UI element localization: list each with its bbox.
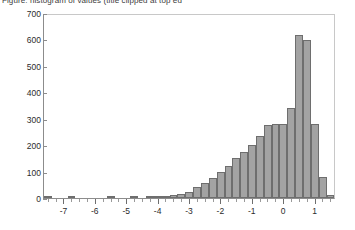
- y-axis-tick-label: 600: [1, 36, 41, 45]
- histogram-bar: [130, 196, 138, 198]
- histogram-bar: [279, 124, 287, 198]
- y-axis: 0100200300400500600700: [0, 0, 41, 230]
- histogram-chart: Figure: histogram of values (title clipp…: [0, 0, 355, 230]
- histogram-bar: [44, 196, 52, 198]
- x-axis-minor-tick: [56, 199, 57, 202]
- histogram-bar: [107, 196, 115, 198]
- x-axis-minor-tick: [267, 199, 268, 202]
- x-axis-minor-tick: [307, 199, 308, 202]
- x-axis-minor-tick: [275, 199, 276, 202]
- y-axis-tick-label: 400: [1, 89, 41, 98]
- y-axis-tick-label: 500: [1, 63, 41, 72]
- plot-area: [43, 14, 335, 199]
- histogram-bar: [232, 158, 240, 198]
- y-axis-tick-mark: [43, 14, 47, 15]
- x-axis-minor-tick: [181, 199, 182, 202]
- x-axis-minor-tick: [87, 199, 88, 202]
- histogram-bar: [311, 124, 319, 198]
- x-axis-minor-tick: [103, 199, 104, 202]
- x-axis-major-tick: [283, 199, 284, 204]
- histogram-bar: [240, 152, 248, 198]
- histogram-bar: [193, 187, 201, 198]
- histogram-bar: [256, 136, 264, 198]
- x-axis-tick-label: -1: [240, 207, 264, 216]
- histogram-bar: [327, 195, 335, 198]
- x-axis-minor-tick: [173, 199, 174, 202]
- x-axis-minor-tick: [291, 199, 292, 202]
- x-axis-tick-label: -4: [146, 207, 170, 216]
- bar-series: [44, 15, 334, 198]
- y-axis-tick-label: 300: [1, 116, 41, 125]
- x-axis-minor-tick: [71, 199, 72, 202]
- x-axis-minor-tick: [299, 199, 300, 202]
- x-axis-tick-label: -3: [177, 207, 201, 216]
- x-axis-minor-tick: [244, 199, 245, 202]
- x-axis-minor-tick: [150, 199, 151, 202]
- x-axis-minor-tick: [48, 199, 49, 202]
- histogram-bar: [177, 194, 185, 198]
- x-axis-major-tick: [63, 199, 64, 204]
- histogram-bar: [303, 40, 311, 198]
- x-axis-tick-label: 1: [303, 207, 327, 216]
- histogram-bar: [295, 35, 303, 198]
- histogram-bar: [272, 124, 280, 198]
- histogram-bar: [154, 196, 162, 198]
- x-axis-minor-tick: [197, 199, 198, 202]
- y-axis-tick-mark: [43, 67, 47, 68]
- histogram-bar: [162, 196, 170, 198]
- y-axis-tick-label: 200: [1, 142, 41, 151]
- x-axis-major-tick: [220, 199, 221, 204]
- x-axis-minor-tick: [213, 199, 214, 202]
- x-axis-tick-label: -2: [208, 207, 232, 216]
- x-axis-minor-tick: [205, 199, 206, 202]
- x-axis-tick-label: -6: [83, 207, 107, 216]
- histogram-bar: [264, 125, 272, 198]
- y-axis-tick-mark: [43, 173, 47, 174]
- x-axis-major-tick: [315, 199, 316, 204]
- x-axis-minor-tick: [236, 199, 237, 202]
- x-axis-major-tick: [95, 199, 96, 204]
- x-axis-tick-label: -5: [114, 207, 138, 216]
- histogram-bar: [201, 183, 209, 198]
- histogram-bar: [68, 196, 76, 198]
- y-axis-tick-label: 100: [1, 169, 41, 178]
- y-axis-tick-label: 700: [1, 10, 41, 19]
- x-axis-minor-tick: [330, 199, 331, 202]
- x-axis-minor-tick: [260, 199, 261, 202]
- x-axis-tick-label: -7: [51, 207, 75, 216]
- histogram-bar: [225, 166, 233, 198]
- x-axis-minor-tick: [111, 199, 112, 202]
- x-axis-minor-tick: [79, 199, 80, 202]
- histogram-bar: [170, 195, 178, 198]
- histogram-bar: [248, 145, 256, 198]
- x-axis-minor-tick: [134, 199, 135, 202]
- y-axis-tick-label: 0: [1, 195, 41, 204]
- x-axis-minor-tick: [142, 199, 143, 202]
- x-axis-major-tick: [252, 199, 253, 204]
- histogram-bar: [185, 192, 193, 198]
- x-axis-tick-label: 0: [271, 207, 295, 216]
- x-axis-minor-tick: [322, 199, 323, 202]
- x-axis-major-tick: [158, 199, 159, 204]
- x-axis: -7-6-5-4-3-2-101: [43, 199, 335, 230]
- histogram-bar: [287, 108, 295, 198]
- histogram-bar: [319, 177, 327, 198]
- y-axis-tick-mark: [43, 40, 47, 41]
- histogram-bar: [146, 196, 154, 198]
- y-axis-tick-mark: [43, 199, 47, 200]
- x-axis-minor-tick: [165, 199, 166, 202]
- x-axis-minor-tick: [228, 199, 229, 202]
- y-axis-tick-mark: [43, 146, 47, 147]
- y-axis-tick-mark: [43, 93, 47, 94]
- x-axis-major-tick: [126, 199, 127, 204]
- y-axis-tick-mark: [43, 120, 47, 121]
- histogram-bar: [217, 172, 225, 198]
- x-axis-minor-tick: [118, 199, 119, 202]
- histogram-bar: [209, 178, 217, 198]
- x-axis-major-tick: [189, 199, 190, 204]
